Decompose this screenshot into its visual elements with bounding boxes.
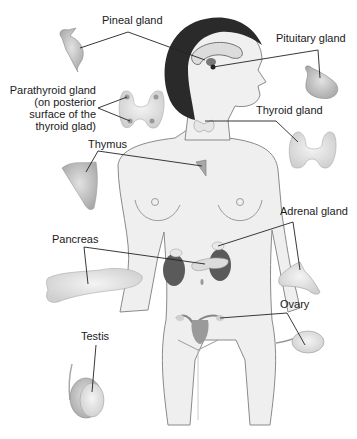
testis-label: Testis <box>81 330 109 342</box>
pineal-gland-label: Pineal gland <box>102 14 163 26</box>
parathyroid-label-line-2: (on posterior <box>4 96 96 108</box>
thyroid-gland-label: Thyroid gland <box>256 104 323 116</box>
body-figure <box>118 128 300 425</box>
endocrine-diagram <box>0 0 357 439</box>
thyroid-gland-illustration <box>289 132 336 168</box>
adrenal-gland-label: Adrenal gland <box>280 205 348 217</box>
thymus-illustration <box>62 162 97 210</box>
testis-illustration <box>69 364 104 418</box>
thymus-label: Thymus <box>88 138 127 150</box>
pituitary-gland-label: Pituitary gland <box>276 32 346 44</box>
pineal-gland-illustration <box>60 28 83 72</box>
pancreas-label: Pancreas <box>52 233 98 245</box>
parathyroid-label-line-1: Parathyroid gland <box>4 84 96 96</box>
adrenal-leader-illustration <box>293 222 300 270</box>
parathyroid-label-line-3: surface of the <box>4 108 96 120</box>
ovary-illustration <box>276 331 324 353</box>
pituitary-gland-illustration <box>305 66 337 99</box>
parathyroid-gland-label: Parathyroid gland (on posterior surface … <box>4 84 96 132</box>
parathyroid-label-line-4: thyroid glad) <box>4 120 96 132</box>
head <box>165 17 266 140</box>
ovary-label: Ovary <box>280 298 309 310</box>
